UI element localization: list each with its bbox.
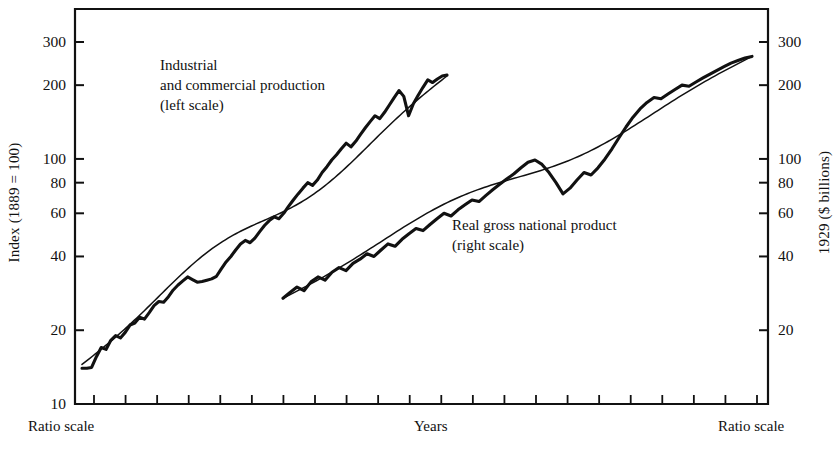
plot-area <box>0 0 840 451</box>
right-axis-ticks <box>759 42 768 330</box>
left-tick-label-20: 20 <box>22 322 66 338</box>
bottom-right-ratio-scale-label: Ratio scale <box>718 418 784 435</box>
left-tick-label-300: 300 <box>22 34 66 50</box>
left-axis-ticks <box>75 42 84 330</box>
left-tick-label-200: 200 <box>22 77 66 93</box>
left-tick-label-80: 80 <box>22 175 66 191</box>
right-tick-label-60: 60 <box>778 205 822 221</box>
series-2-annotation: Real gross national product (right scale… <box>452 216 617 256</box>
x-axis-label-years: Years <box>414 418 447 435</box>
right-axis-title: 1929 ($ billions) <box>810 0 840 404</box>
left-tick-label-40: 40 <box>22 248 66 264</box>
chart-figure: Index (1889 = 100) 1929 ($ billions) Ind… <box>0 0 840 451</box>
left-axis-title-text: Index (1889 = 100) <box>7 142 24 262</box>
bottom-left-ratio-scale-label: Ratio scale <box>28 418 94 435</box>
x-axis-ticks <box>94 395 757 404</box>
left-tick-label-100: 100 <box>22 151 66 167</box>
left-tick-label-10: 10 <box>22 396 66 412</box>
right-tick-label-80: 80 <box>778 175 822 191</box>
series-1-annotation: Industrial and commercial production (le… <box>160 56 325 116</box>
left-tick-label-60: 60 <box>22 205 66 221</box>
right-tick-label-200: 200 <box>778 77 822 93</box>
data-line-series-1 <box>82 75 447 368</box>
right-tick-label-100: 100 <box>778 151 822 167</box>
right-tick-label-20: 20 <box>778 322 822 338</box>
right-tick-label-40: 40 <box>778 248 822 264</box>
left-axis-title: Index (1889 = 100) <box>0 0 30 404</box>
right-tick-label-300: 300 <box>778 34 822 50</box>
